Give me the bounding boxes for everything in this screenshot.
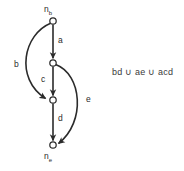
node-n2[interactable] bbox=[50, 60, 56, 66]
graph-svg bbox=[0, 0, 184, 171]
edge-label-a: a bbox=[58, 36, 63, 45]
node-label-nb-subscript: b bbox=[49, 10, 52, 16]
edge-e-line bbox=[56, 64, 78, 143]
edge-b-line bbox=[26, 23, 51, 98]
node-label-ne: ne bbox=[44, 152, 52, 163]
edge-label-e: e bbox=[86, 95, 91, 104]
edge-label-c: c bbox=[41, 75, 45, 84]
edge-label-d: d bbox=[58, 114, 63, 123]
diagram-canvas: nb ne a b c d e bd ∪ ae ∪ acd bbox=[0, 0, 184, 171]
edges-group bbox=[26, 23, 77, 143]
node-label-nb: nb bbox=[44, 5, 52, 16]
node-ne[interactable] bbox=[50, 142, 56, 148]
node-label-ne-subscript: e bbox=[49, 157, 52, 163]
node-nb[interactable] bbox=[50, 18, 56, 24]
path-expression-formula: bd ∪ ae ∪ acd bbox=[112, 68, 173, 77]
node-n3[interactable] bbox=[50, 97, 56, 103]
edge-label-b: b bbox=[14, 60, 19, 69]
